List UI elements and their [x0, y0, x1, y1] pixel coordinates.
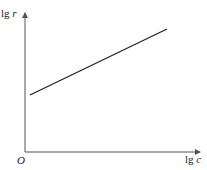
y-axis-label: lg r	[1, 7, 17, 19]
origin-label: O	[17, 154, 25, 166]
data-line	[30, 29, 167, 95]
lg-r-vs-lg-c-diagram: lg r lg c O	[0, 0, 207, 170]
x-axis-label: lg c	[185, 153, 201, 165]
